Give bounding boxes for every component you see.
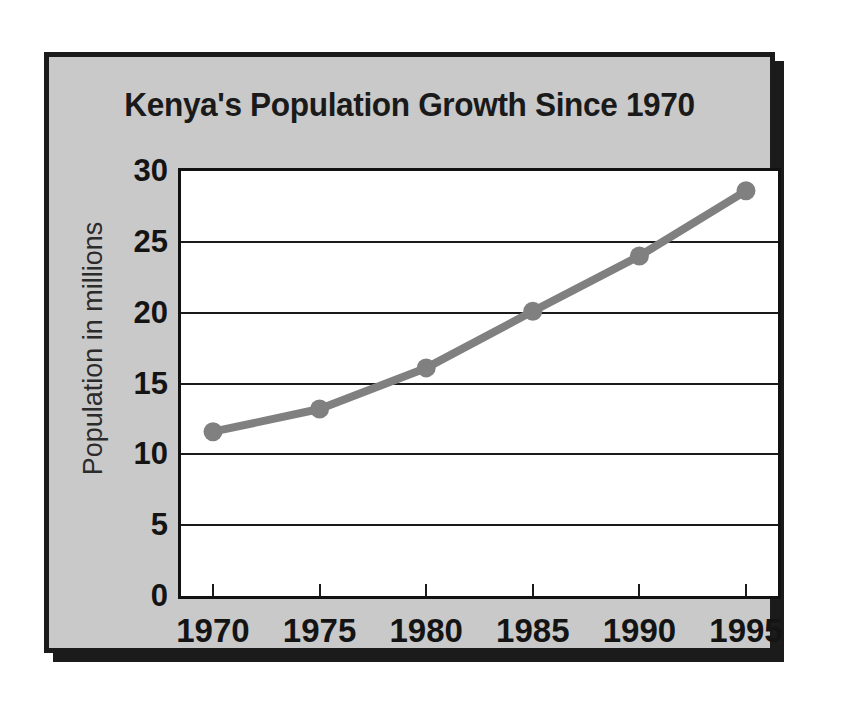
y-axis-tick-label: 0 [151,578,168,614]
data-point-marker [417,358,436,377]
data-point-marker [204,422,223,441]
x-axis-tick-label: 1985 [496,612,569,650]
data-point-marker [737,181,756,200]
series-line [213,191,746,432]
chart-title: Kenya's Population Growth Since 1970 [74,85,745,124]
x-axis-tick-label: 1975 [283,612,356,650]
data-point-marker [523,302,542,321]
y-axis-tick-label: 15 [134,366,168,402]
data-point-marker [630,247,649,266]
x-axis-tick-label: 1990 [603,612,676,650]
x-axis-tick-label: 1995 [709,612,782,650]
chart-figure-panel: Kenya's Population Growth Since 1970 Pop… [44,52,775,653]
y-axis-tick-label: 10 [134,436,168,472]
y-axis-tick-label: 5 [151,507,168,543]
y-axis-tick-label: 30 [134,153,168,189]
y-axis-tick-label: 25 [134,224,168,260]
plot-inner: 051015202530197019751980198519901995 [181,171,778,596]
plot-area: 051015202530197019751980198519901995 [178,168,781,599]
data-point-marker [310,400,329,419]
y-axis-tick-label: 20 [134,295,168,331]
screenshot-root: Kenya's Population Growth Since 1970 Pop… [0,0,843,713]
series-layer [181,171,778,596]
y-axis-title: Population in millions [78,199,109,499]
x-axis-tick-label: 1970 [176,612,249,650]
x-axis-tick-label: 1980 [389,612,462,650]
